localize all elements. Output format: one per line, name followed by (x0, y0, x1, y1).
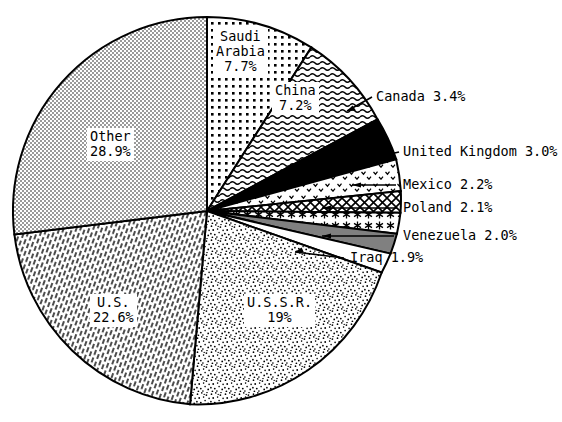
slice-label-saudi-arabia: Saudi Arabia 7.7% (213, 28, 268, 76)
pie-chart-figure: Other 28.9% Saudi Arabia 7.7% China 7.2%… (0, 0, 562, 422)
callout-label-venezuela: Venezuela 2.0% (403, 228, 517, 243)
slice-label-ussr: U.S.S.R. 19% (244, 294, 315, 327)
slice-label-other: Other 28.9% (87, 128, 134, 161)
callout-label-iraq: Iraq 1.9% (350, 250, 423, 265)
pie-slices (13, 17, 401, 404)
callout-label-poland: Poland 2.1% (403, 200, 492, 215)
callout-label-united-kingdom: United Kingdom 3.0% (403, 144, 557, 159)
slice-other[interactable] (13, 17, 207, 234)
slice-label-us: U.S. 22.6% (90, 294, 137, 327)
callout-label-canada: Canada 3.4% (376, 89, 465, 104)
callout-label-mexico: Mexico 2.2% (403, 177, 492, 192)
slice-label-china: China 7.2% (272, 82, 319, 115)
